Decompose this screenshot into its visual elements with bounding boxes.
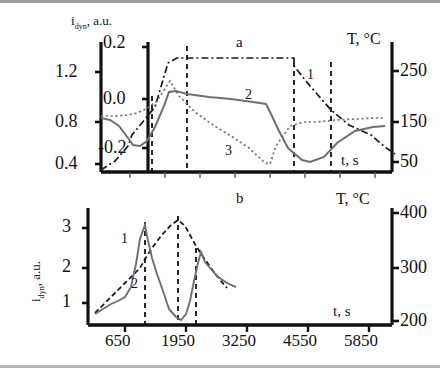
panel-b-right-tick-3: 200 [400, 310, 427, 331]
panel-a-right-axis-title: T, °C [347, 30, 381, 48]
panel-a-inner-tick-1: 0.2 [103, 32, 126, 53]
panel-b-x-tick-1: 650 [105, 331, 131, 351]
panel-a-outer-tick-3: 0.4 [55, 153, 78, 174]
panel-b-left-tick-3: 1 [62, 291, 71, 312]
panel-b: b 1 2 [82, 190, 399, 332]
panel-b-right-tick-1: 400 [400, 202, 427, 223]
panel-a-inner-tick-2: 0.0 [103, 88, 126, 109]
panel-b-y-axis-units: , a.u. [28, 261, 43, 286]
panel-b-curve-label-2: 2 [131, 276, 138, 291]
panel-a-outer-tick-2: 0.8 [55, 111, 78, 132]
panel-a-y-axis-subscript: dyn [75, 22, 87, 31]
panel-a-vertical-markers [148, 46, 331, 172]
panel-b-y-axis-title: idyn, a.u. [28, 261, 46, 302]
panel-b-x-tick-2: 1950 [161, 331, 195, 351]
figure-canvas: a 1 2 3 b 1 2 [0, 0, 440, 368]
panel-b-label: b [236, 190, 244, 206]
panel-a-right-tick-3: 50 [400, 151, 418, 172]
panel-a-right-tick-2: 150 [400, 111, 427, 132]
panel-b-x-axis-title: t, s [333, 303, 351, 320]
panel-a-right-tick-1: 250 [400, 60, 427, 81]
panel-b-curve-1 [95, 220, 227, 313]
panel-b-x-tick-5: 5850 [344, 331, 378, 351]
panel-b-left-tick-2: 2 [62, 256, 71, 277]
panel-a-label: a [236, 34, 243, 50]
panel-b-curve-2 [95, 225, 236, 320]
panel-b-right-axis-title: T, °C [336, 190, 370, 208]
panel-a-curve-label-3: 3 [225, 143, 232, 158]
panel-a-x-axis-title: t, s [341, 152, 359, 169]
panel-b-left-tick-1: 3 [62, 216, 71, 237]
panel-a-inner-tick-3: -0.2 [98, 137, 127, 158]
panel-b-y-axis-subscript: dyn [37, 286, 46, 298]
panel-a-curve-label-2: 2 [245, 87, 252, 102]
panel-b-x-tick-3: 3250 [222, 331, 256, 351]
panel-a-y-axis-title: idyn, a.u. [71, 13, 112, 31]
panel-b-right-tick-2: 300 [400, 257, 427, 278]
panel-b-curve-label-1: 1 [121, 231, 128, 246]
panel-b-y-axis-symbol: i [28, 298, 43, 302]
panel-a-curve-label-1: 1 [307, 67, 314, 82]
panel-a-y-axis-units: , a.u. [87, 13, 112, 28]
panel-a-outer-tick-1: 1.2 [55, 61, 78, 82]
panel-b-x-tick-4: 4550 [283, 331, 317, 351]
